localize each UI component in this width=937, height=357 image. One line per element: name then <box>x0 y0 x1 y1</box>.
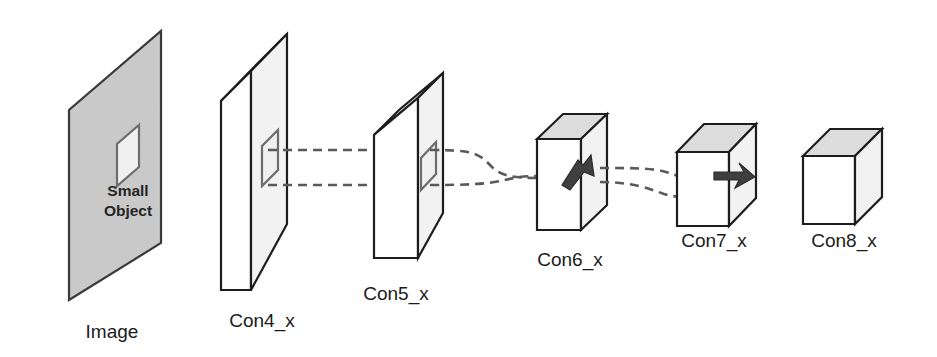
image-object-label-line2: Object <box>104 202 152 219</box>
stage-con4: Con4_x <box>221 34 295 332</box>
con5-front-face <box>374 98 418 258</box>
stage-label-con8: Con8_x <box>811 230 877 252</box>
con4-left-face <box>221 71 251 290</box>
stage-con7: Con7_x <box>677 124 756 252</box>
image-plane-face <box>69 31 161 300</box>
stage-image: Small Object Image <box>69 31 161 342</box>
stage-con6: Con6_x <box>537 114 607 271</box>
image-object-label-line1: Small <box>107 182 148 199</box>
stage-label-con7: Con7_x <box>681 230 747 252</box>
stage-label-con6: Con6_x <box>537 249 603 271</box>
stage-con5: Con5_x <box>363 73 443 305</box>
diagram-canvas: Small Object Image Con4_x <box>0 0 937 357</box>
stage-label-con4: Con4_x <box>229 310 295 332</box>
network-stage-diagram: Small Object Image Con4_x <box>0 0 937 357</box>
con8-front-face <box>803 156 855 224</box>
con7-front-face <box>677 152 729 226</box>
stage-con8: Con8_x <box>803 129 882 252</box>
stage-label-con5: Con5_x <box>363 283 429 305</box>
stage-label-image: Image <box>86 321 139 342</box>
flow-line-upper-b <box>430 150 538 178</box>
flow-con5-to-con6 <box>430 150 538 185</box>
flow-line-lower-b <box>430 176 538 185</box>
